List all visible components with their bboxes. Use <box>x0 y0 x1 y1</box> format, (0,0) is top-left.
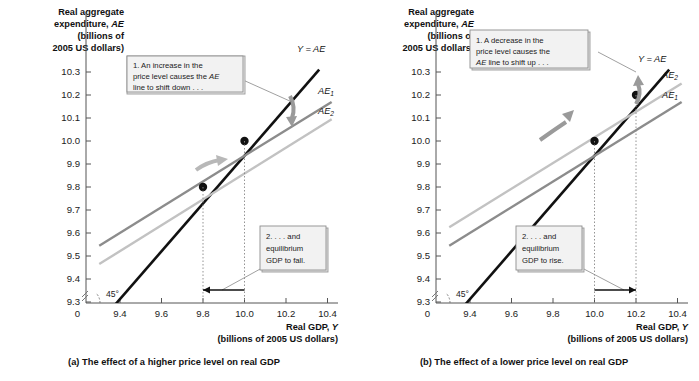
y-axis-title-line4: 2005 US dollars) <box>53 43 125 53</box>
equilibrium-points-b <box>590 91 640 145</box>
chart-svg-a: Real aggregate expenditure, AE (billions… <box>0 0 349 381</box>
callout1-line3-a: line to shift down . . . <box>133 83 203 92</box>
chart-panel-b: Real aggregate expenditure, AE (billions… <box>350 0 699 381</box>
y-tick-label: 9.4 <box>417 273 431 284</box>
callout2-line3-b: GDP to rise. <box>522 256 564 265</box>
y-axis-ticks-b: 9.39.49.59.69.79.89.910.010.110.210.30 <box>411 66 441 319</box>
angle-arc-b <box>446 293 450 303</box>
callout2-line1-a: 2. . . . and <box>266 232 300 241</box>
y-tick-label: 9.4 <box>67 273 81 284</box>
gdp-arrow-head <box>203 287 210 294</box>
y-tick-label: 10.0 <box>411 135 430 146</box>
y-tick-label: 10.2 <box>411 89 430 100</box>
guide-lines-b <box>595 95 637 303</box>
y-tick-label: 9.3 <box>417 296 430 307</box>
series-label-ae-lower-b: AE1 <box>661 90 678 101</box>
y-tick-label: 9.7 <box>417 204 430 215</box>
x-axis-ticks-a: 9.49.69.810.010.210.4 <box>113 298 337 319</box>
x-tick-label: 10.2 <box>627 308 646 319</box>
y-tick-label: 10.2 <box>61 89 80 100</box>
y-tick-label: 10.1 <box>411 112 430 123</box>
shift-arrow-head-b2 <box>562 110 574 122</box>
y-axis-title-line1-b: Real aggregate <box>408 7 474 17</box>
x-tick-label: 9.4 <box>113 308 127 319</box>
callout1-line1-b: 1. A decrease in the <box>476 36 544 45</box>
callout2-leader-a <box>222 268 262 290</box>
callout2-line2-b: equilibrium <box>522 244 559 253</box>
y-tick-label: 10.3 <box>61 66 80 77</box>
y-axis-title-line3: (billions of <box>78 31 125 41</box>
gdp-arrow-head <box>629 287 636 294</box>
x-axis-title-b: Real GDP, Y <box>636 322 689 332</box>
shift-arrow-a2 <box>196 160 220 170</box>
x-tick-label: 9.4 <box>463 308 477 319</box>
x-tick-label: 9.6 <box>155 308 168 319</box>
x-tick-label: 10.2 <box>277 308 296 319</box>
y-tick-label: 9.5 <box>67 250 80 261</box>
series-line <box>455 70 669 316</box>
series-label-ae-lower-a: AE2 <box>317 106 334 117</box>
angle-arc <box>96 293 100 303</box>
series-lines-b <box>449 70 681 316</box>
figure-container: Real aggregate expenditure, AE (billions… <box>0 0 699 381</box>
y-tick-label: 9.9 <box>67 158 80 169</box>
series-label-ae-upper-a: AE1 <box>317 86 334 97</box>
shift-arrow-head-b <box>633 75 644 86</box>
callout1-leader-b <box>598 52 636 72</box>
callout1-line2-a: price level causes the AE <box>133 72 220 81</box>
guide-lines-a <box>203 141 245 303</box>
gdp-shift-arrow-a <box>203 287 245 294</box>
callout2-line3-a: GDP to fall. <box>266 256 305 265</box>
y-axis-title-line2: expenditure, AE <box>54 19 125 29</box>
y-tick-label: 10.0 <box>61 135 80 146</box>
y-axis-ticks-a: 9.39.49.59.69.79.89.910.010.110.210.30 <box>61 66 91 319</box>
callout2-line2-a: equilibrium <box>266 244 303 253</box>
callout1-line3-b: AE line to shift up . . . <box>475 58 549 67</box>
y-axis-title-line4-b: 2005 US dollars) <box>403 43 475 53</box>
chart-panel-a: Real aggregate expenditure, AE (billions… <box>0 0 349 381</box>
series-label-identity-b: Y = AE <box>638 54 667 64</box>
shift-arrow-a <box>290 96 294 118</box>
y-tick-label: 9.8 <box>67 181 80 192</box>
y-axis-title-line2-b: expenditure, AE <box>404 19 475 29</box>
x-tick-label: 10.0 <box>235 308 254 319</box>
panel-caption-a: (a) The effect of a higher price level o… <box>68 357 280 367</box>
callout2-leader-b <box>582 268 624 290</box>
x-axis-ticks-b: 9.49.69.810.010.210.4 <box>463 298 687 319</box>
y-tick-label: 9.6 <box>417 227 430 238</box>
angle-label-b: 45° <box>456 289 469 299</box>
x-tick-label: 9.6 <box>505 308 518 319</box>
callout1-line1-a: 1. An increase in the <box>133 61 203 70</box>
x-tick-label: 10.0 <box>585 308 604 319</box>
x-tick-label: 9.8 <box>546 308 559 319</box>
x-axis-subtitle-b: (billions of 2005 US dollars) <box>568 334 688 344</box>
callout2-line1-b: 2. . . . and <box>522 232 556 241</box>
panel-caption-b: (b) The effect of a lower price level on… <box>420 357 628 367</box>
y-tick-label: 9.7 <box>67 204 80 215</box>
y-tick-label: 9.8 <box>417 181 430 192</box>
axis-break-mark <box>82 291 88 301</box>
x-axis-subtitle-a: (billions of 2005 US dollars) <box>218 334 338 344</box>
series-label-ae-upper-b: AE2 <box>661 70 678 81</box>
y-axis-title-line3-b: (billions of <box>428 31 475 41</box>
y-tick-label: 9.5 <box>417 250 430 261</box>
x-tick-label: 10.4 <box>668 308 687 319</box>
y-tick-label: 9.3 <box>67 296 80 307</box>
gdp-shift-arrow-b <box>595 287 637 294</box>
series-line <box>99 102 331 246</box>
series-line <box>449 84 681 228</box>
y-tick-label: 10.3 <box>411 66 430 77</box>
shift-arrow-b2 <box>540 122 566 140</box>
y-axis-title-line1: Real aggregate <box>58 7 124 17</box>
origin-label: 0 <box>425 308 430 319</box>
x-tick-label: 10.4 <box>318 308 337 319</box>
callout1-leader-a <box>243 80 292 102</box>
series-lines-a <box>99 70 331 316</box>
series-label-identity-a: Y = AE <box>297 44 326 54</box>
y-tick-label: 9.6 <box>67 227 80 238</box>
x-axis-title-a: Real GDP, Y <box>286 322 339 332</box>
y-tick-label: 9.9 <box>417 158 430 169</box>
chart-svg-b: Real aggregate expenditure, AE (billions… <box>350 0 699 381</box>
y-tick-label: 10.1 <box>61 112 80 123</box>
callout1-line2-b: price level causes the <box>476 47 550 56</box>
